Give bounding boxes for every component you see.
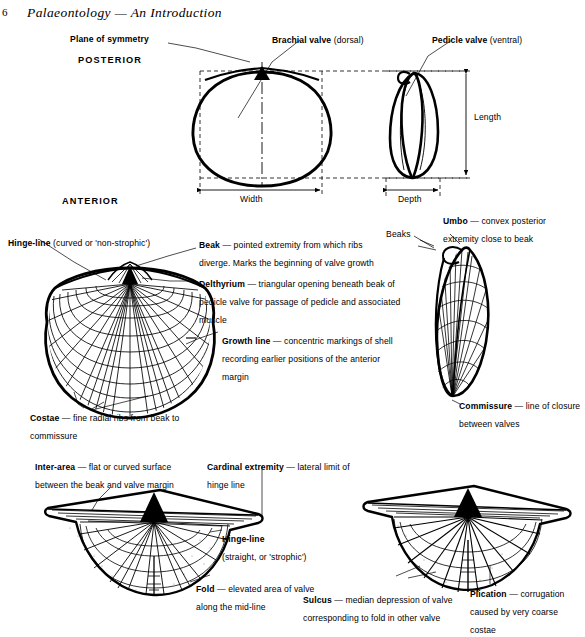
beak-body: — pointed extremity from which ribs dive… bbox=[199, 240, 374, 268]
growth-line-definition: Growth line — concentric markings of she… bbox=[222, 330, 402, 384]
umbo-definition: Umbo — convex posterior extremity close … bbox=[443, 210, 583, 246]
posterior-label: POSTERIOR bbox=[78, 55, 142, 65]
costae-term: Costae bbox=[30, 413, 59, 423]
delthyrium-term: Delthyrium bbox=[199, 279, 245, 289]
fold-body: — elevated area of valve along the mid-l… bbox=[196, 584, 315, 612]
width-label: Width bbox=[240, 194, 263, 204]
inter-area-definition: Inter-area — flat or curved surface betw… bbox=[35, 456, 185, 492]
brachial-valve-label: Brachial valve (dorsal) bbox=[272, 29, 402, 47]
beak-definition: Beak — pointed extremity from which ribs… bbox=[199, 234, 379, 270]
growth-line-term: Growth line bbox=[222, 336, 270, 346]
plane-of-symmetry-label: Plane of symmetry bbox=[70, 34, 149, 44]
hinge-line-curved-label: Hinge-line (curved or 'non-strophic') bbox=[8, 232, 198, 250]
commissure-term: Commissure bbox=[459, 401, 512, 411]
running-head: Palaeontology — An Introduction bbox=[27, 5, 222, 21]
brachial-valve-term: Brachial valve bbox=[272, 35, 331, 45]
cardinal-extremity-term: Cardinal extremity bbox=[207, 462, 284, 472]
hinge-line-straight-definition: Hinge-line (straight, or 'strophic') bbox=[222, 528, 372, 564]
pedicle-valve-side bbox=[390, 73, 414, 178]
beaks-label: Beaks bbox=[386, 229, 411, 239]
leader-beak bbox=[136, 248, 196, 266]
middle-figure-side-valve bbox=[435, 247, 490, 396]
length-label: Length bbox=[474, 112, 501, 122]
fold-term: Fold bbox=[196, 584, 215, 594]
inter-area-term: Inter-area bbox=[35, 462, 75, 472]
cardinal-extremity-definition: Cardinal extremity — lateral limit of hi… bbox=[207, 456, 367, 492]
hinge-line-qualifier: (curved or 'non-strophic') bbox=[51, 238, 151, 248]
bottom-figure-right-shell bbox=[364, 486, 571, 592]
leader-beaks-3 bbox=[414, 236, 434, 248]
umbo-term: Umbo bbox=[443, 216, 468, 226]
leader-beaks bbox=[418, 246, 436, 250]
pedicle-valve-term: Pedicle valve bbox=[432, 35, 487, 45]
costae-definition: Costae — fine radial ribs from beak to c… bbox=[30, 407, 210, 443]
plication-definition: Plication — corrugation caused by very c… bbox=[470, 583, 585, 637]
hinge-line-straight-term: Hinge-line bbox=[222, 534, 265, 544]
leader-sulcus-a bbox=[396, 566, 420, 576]
delthyrium-definition: Delthyrium — triangular opening beneath … bbox=[199, 273, 409, 327]
sulcus-term: Sulcus bbox=[303, 595, 332, 605]
brachial-valve-qualifier: (dorsal) bbox=[331, 35, 363, 45]
pedicle-valve-qualifier: (ventral) bbox=[487, 35, 522, 45]
folio-number: 6 bbox=[2, 6, 8, 18]
anterior-label: ANTERIOR bbox=[62, 196, 119, 206]
top-figure-side-view bbox=[386, 71, 470, 196]
depth-label: Depth bbox=[398, 194, 422, 204]
hinge-line-straight-body: (straight, or 'strophic') bbox=[222, 552, 307, 562]
sulcus-definition: Sulcus — median depression of valve corr… bbox=[303, 589, 453, 625]
commissure-definition: Commissure — line of closure between val… bbox=[459, 395, 584, 431]
plication-term: Plication bbox=[470, 589, 507, 599]
beak-term: Beak bbox=[199, 240, 220, 250]
pedicle-valve-label: Pedicle valve (ventral) bbox=[432, 29, 572, 47]
hinge-line-term: Hinge-line bbox=[8, 238, 51, 248]
top-figure-brachial-outline bbox=[193, 62, 470, 196]
middle-figure-front-valve bbox=[45, 262, 215, 418]
